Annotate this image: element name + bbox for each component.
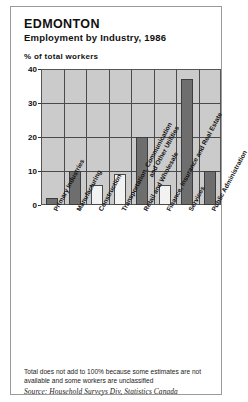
y-tick-mark bbox=[38, 137, 41, 138]
page-title: EDMONTON bbox=[24, 17, 214, 31]
title-block: EDMONTON Employment by Industry, 1986 bbox=[24, 17, 214, 44]
chart-source: Source: Household Surveys Div, Statistic… bbox=[24, 387, 214, 396]
y-tick-mark bbox=[38, 171, 41, 172]
y-tick-label: 20 bbox=[28, 133, 37, 142]
chart-subtitle: Employment by Industry, 1986 bbox=[24, 32, 214, 44]
y-tick-label: 0 bbox=[33, 201, 37, 210]
y-tick-mark bbox=[38, 205, 41, 206]
y-tick-label: 10 bbox=[28, 167, 37, 176]
x-axis-labels: Primary IndustriesManufacturingConstruct… bbox=[41, 207, 232, 347]
y-tick-mark bbox=[38, 103, 41, 104]
y-axis-caption: % of total workers bbox=[24, 52, 98, 61]
chart-figure-frame: EDMONTON Employment by Industry, 1986 % … bbox=[10, 6, 222, 395]
chart-footnote: Total does not add to 100% because some … bbox=[24, 367, 214, 385]
y-tick-label: 40 bbox=[28, 65, 37, 74]
y-tick-mark bbox=[38, 69, 41, 70]
y-tick-label: 30 bbox=[28, 99, 37, 108]
